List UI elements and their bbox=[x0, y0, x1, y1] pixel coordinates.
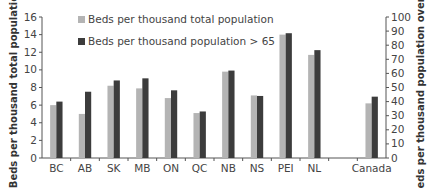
left-axis-title: Beds per thousand total population bbox=[8, 0, 19, 188]
bar-total-population bbox=[193, 113, 199, 158]
bar-population-over-65 bbox=[200, 111, 206, 158]
category-label: NS bbox=[250, 162, 265, 174]
left-tick-label: 2 bbox=[30, 134, 37, 146]
category-label: SK bbox=[107, 162, 122, 174]
right-tick-label: 70 bbox=[391, 53, 404, 65]
bar-population-over-65 bbox=[228, 71, 234, 158]
category-label: AB bbox=[78, 162, 92, 174]
bar-population-over-65 bbox=[142, 78, 148, 158]
right-tick-label: 0 bbox=[391, 152, 398, 164]
right-tick-label: 100 bbox=[391, 11, 411, 23]
right-axis-title: Beds per thousand population over 65 bbox=[415, 0, 426, 188]
legend: Beds per thousand total populationBeds p… bbox=[78, 13, 275, 47]
left-tick-label: 6 bbox=[30, 99, 37, 111]
bar-population-over-65 bbox=[257, 96, 263, 158]
left-tick-label: 4 bbox=[30, 116, 37, 128]
bar-total-population bbox=[222, 72, 228, 158]
bar-population-over-65 bbox=[56, 102, 62, 158]
bar-total-population bbox=[365, 103, 371, 158]
legend-label: Beds per thousand population > 65 bbox=[88, 35, 275, 47]
bar-population-over-65 bbox=[372, 97, 378, 158]
left-tick-label: 8 bbox=[30, 81, 37, 93]
bar-total-population bbox=[107, 86, 113, 158]
bar-population-over-65 bbox=[171, 90, 177, 158]
right-tick-label: 80 bbox=[391, 39, 404, 51]
right-tick-label: 40 bbox=[391, 95, 404, 107]
right-tick-label: 50 bbox=[391, 81, 404, 93]
legend-label: Beds per thousand total population bbox=[88, 13, 274, 25]
bar-total-population bbox=[165, 98, 171, 158]
right-tick-label: 30 bbox=[391, 109, 404, 121]
right-tick-label: 10 bbox=[391, 137, 404, 149]
bar-total-population bbox=[251, 95, 257, 158]
right-tick-label: 90 bbox=[391, 25, 404, 37]
left-tick-label: 0 bbox=[30, 152, 37, 164]
bar-population-over-65 bbox=[85, 92, 91, 158]
left-tick-label: 14 bbox=[24, 28, 38, 40]
bar-chart: 0246810121416 0102030405060708090100 BCA… bbox=[0, 0, 432, 188]
category-label: MB bbox=[134, 162, 150, 174]
right-y-axis: 0102030405060708090100 bbox=[386, 11, 411, 164]
bar-population-over-65 bbox=[114, 80, 120, 158]
right-tick-label: 60 bbox=[391, 67, 404, 79]
category-label: NL bbox=[307, 162, 321, 174]
bar-population-over-65 bbox=[314, 50, 320, 158]
right-tick-label: 20 bbox=[391, 123, 404, 135]
legend-swatch bbox=[78, 16, 85, 23]
bars-group bbox=[50, 33, 378, 158]
category-label: QC bbox=[192, 162, 208, 174]
category-label: PEI bbox=[278, 162, 294, 174]
bar-total-population bbox=[136, 88, 142, 158]
category-label: Canada bbox=[352, 162, 392, 174]
bar-total-population bbox=[308, 55, 314, 158]
legend-swatch bbox=[78, 38, 85, 45]
left-tick-label: 16 bbox=[24, 11, 38, 23]
category-label: BC bbox=[49, 162, 63, 174]
bar-total-population bbox=[79, 114, 85, 158]
category-label: NB bbox=[221, 162, 236, 174]
category-label: ON bbox=[163, 162, 179, 174]
left-tick-label: 10 bbox=[24, 63, 37, 75]
bar-total-population bbox=[50, 105, 56, 158]
left-tick-label: 12 bbox=[24, 46, 37, 58]
left-y-axis: 0246810121416 bbox=[24, 11, 42, 164]
bar-total-population bbox=[279, 35, 285, 158]
x-axis: BCABSKMBONQCNBNSPEINLCanada bbox=[42, 158, 392, 174]
bar-population-over-65 bbox=[286, 33, 292, 158]
